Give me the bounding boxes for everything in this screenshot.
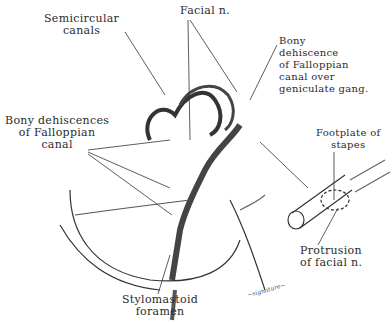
label-facial-nerve: Facial n. [180, 5, 230, 17]
label-bony-dehiscence-geniculate: Bony dehiscence of Falloppian canal over… [279, 35, 368, 95]
label-bony-dehiscences-canal: Bony dehiscences of Falloppian canal [5, 115, 109, 151]
facial-nerve [172, 125, 240, 280]
leader-line [88, 152, 170, 188]
footplate [321, 190, 349, 210]
stapes-cylinder [292, 175, 352, 228]
stapes-end [288, 211, 304, 229]
label-stylomastoid-foramen: Stylomastoid foramen [122, 294, 198, 318]
label-protrusion-facial: Protrusion of facial n. [300, 245, 362, 269]
leader-line [250, 45, 277, 100]
leader-line [188, 20, 190, 140]
skull-outline [70, 190, 240, 281]
ear-edge [240, 195, 265, 210]
ear-canal-region [230, 200, 265, 290]
label-semicircular-canals: Semicircular canals [44, 13, 119, 37]
stapes-extension [350, 160, 390, 192]
leader-line [190, 20, 237, 92]
leader-line [158, 255, 170, 294]
artist-signature: ~signature~ [246, 281, 286, 299]
label-footplate-stapes: Footplate of stapes [316, 127, 380, 151]
skull-outline-lower [60, 225, 160, 290]
leader-line [125, 32, 165, 95]
leader-line [88, 154, 172, 215]
mastoid-region [75, 200, 190, 215]
leader-line [260, 142, 308, 188]
leader-line [318, 208, 338, 245]
